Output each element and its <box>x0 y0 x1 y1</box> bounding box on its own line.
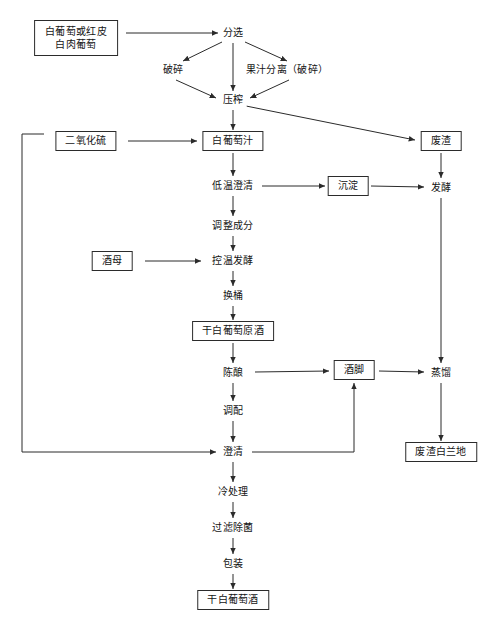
node-sulfur-dioxide[interactable]: 二氧化硫 <box>55 131 116 151</box>
node-pressing[interactable]: 压榨 <box>220 93 247 107</box>
edge-sorting-crushing <box>183 42 222 61</box>
node-grapes-line1: 白葡萄或红皮 <box>45 25 107 38</box>
node-crushing[interactable]: 破碎 <box>160 63 187 77</box>
node-distillation[interactable]: 蒸馏 <box>428 366 455 380</box>
node-sediment[interactable]: 沉淀 <box>328 176 369 196</box>
node-aging[interactable]: 陈酿 <box>220 366 247 380</box>
edge-lees-distillation <box>379 371 424 372</box>
edge-aging-lees <box>255 371 329 372</box>
node-packaging[interactable]: 包装 <box>220 557 247 571</box>
node-grapes[interactable]: 白葡萄或红皮 白肉葡萄 <box>34 20 118 56</box>
node-fermentation[interactable]: 发酵 <box>428 181 455 195</box>
node-base-wine[interactable]: 干白葡萄原酒 <box>192 321 274 341</box>
node-lees[interactable]: 酒脚 <box>334 360 375 380</box>
node-adjust-composition[interactable]: 调整成分 <box>209 219 256 233</box>
node-grapes-line2: 白肉葡萄 <box>45 38 107 51</box>
node-sterile-filtration[interactable]: 过滤除菌 <box>209 521 256 535</box>
node-racking[interactable]: 换桶 <box>220 289 247 303</box>
node-juice-separation[interactable]: 果汁分离（破碎） <box>243 63 331 77</box>
node-temp-controlled-fermentation[interactable]: 控温发酵 <box>209 254 256 268</box>
edge-crushing-pressing <box>176 80 216 98</box>
node-pomace-brandy[interactable]: 废渣白兰地 <box>405 442 477 462</box>
node-white-must[interactable]: 白葡萄汁 <box>202 131 263 151</box>
edge-sorting-juice-sep <box>245 42 287 61</box>
node-pomace[interactable]: 废渣 <box>421 131 462 151</box>
node-sorting[interactable]: 分选 <box>220 26 247 40</box>
node-blending[interactable]: 调配 <box>220 404 247 418</box>
node-cold-settling[interactable]: 低温澄清 <box>209 179 256 193</box>
node-yeast-starter[interactable]: 酒母 <box>92 251 133 271</box>
flowchart-canvas: 白葡萄或红皮 白肉葡萄 分选 破碎 果汁分离（破碎） 压榨 二氧化硫 白葡萄汁 … <box>0 0 504 624</box>
edge-clarify-lees <box>252 383 354 452</box>
node-dry-white-wine[interactable]: 干白葡萄酒 <box>197 590 269 610</box>
node-clarification[interactable]: 澄清 <box>220 445 247 459</box>
edge-sediment-fermentation <box>371 186 424 187</box>
edge-juice-sep-pressing <box>250 80 289 98</box>
node-cold-treatment[interactable]: 冷处理 <box>215 485 252 499</box>
edge-so2-clarify <box>22 134 216 452</box>
edge-pressing-pomace <box>246 106 415 140</box>
